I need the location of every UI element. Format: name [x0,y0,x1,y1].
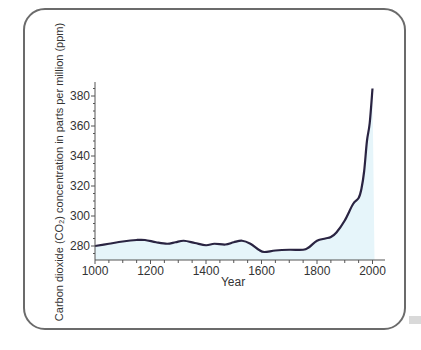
y-tick-label: 300 [70,209,90,223]
y-tick-label: 360 [70,119,90,133]
x-axis-title: Year [221,275,245,289]
co2-line [95,89,373,253]
y-tick-label: 380 [70,89,90,103]
y-tick-label: 340 [70,149,90,163]
x-tick-label: 1600 [248,264,275,278]
y-tick-label: 280 [70,239,90,253]
y-tick-label: 320 [70,179,90,193]
plot-area: 2803003203403603801000120014001600180020… [70,82,386,278]
area-fill [95,89,375,261]
x-tick-label: 1000 [82,264,109,278]
x-tick-label: 1200 [137,264,164,278]
x-tick-label: 1400 [193,264,220,278]
co2-line-chart: 2803003203403603801000120014001600180020… [0,0,421,350]
x-tick-label: 2000 [359,264,386,278]
y-axis-title: Carbon dioxide (CO₂) concentration in pa… [53,23,65,321]
x-tick-label: 1800 [304,264,331,278]
